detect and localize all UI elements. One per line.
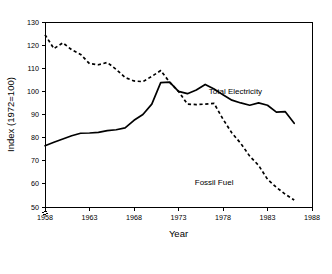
plot-box: [45, 22, 312, 207]
chart-canvas: 5060708090100110120130 19581963196819731…: [0, 0, 332, 274]
series-label-total-electricity: Total Electricity: [209, 87, 262, 96]
x-tick-label-1988: 1988: [304, 213, 320, 222]
x-tick-label-1973: 1973: [171, 213, 187, 222]
y-tick-label-60: 60: [31, 179, 39, 188]
series-line-fossil-fuel: [45, 35, 294, 200]
plot-frame: [45, 22, 312, 207]
y-tick-label-50: 50: [31, 203, 39, 212]
y-axis-ticks: [42, 22, 46, 207]
x-axis-tick-labels: 1958196319681973197819831988: [37, 213, 320, 222]
series-label-fossil-fuel: Fossil Fuel: [195, 178, 234, 187]
x-tick-label-1983: 1983: [260, 213, 276, 222]
x-tick-label-1978: 1978: [215, 213, 231, 222]
y-tick-label-120: 120: [27, 41, 39, 50]
y-axis-title: Index (1972=100): [5, 77, 16, 152]
x-tick-label-1958: 1958: [37, 213, 53, 222]
y-axis-tick-labels: 5060708090100110120130: [27, 18, 39, 212]
y-tick-label-130: 130: [27, 18, 39, 27]
x-tick-label-1968: 1968: [126, 213, 142, 222]
y-tick-label-100: 100: [27, 87, 39, 96]
y-tick-label-90: 90: [31, 110, 39, 119]
data-series-group: [45, 35, 294, 200]
x-tick-label-1963: 1963: [82, 213, 98, 222]
series-inline-labels: Total ElectricityFossil Fuel: [195, 87, 262, 187]
y-tick-label-80: 80: [31, 133, 39, 142]
y-tick-label-70: 70: [31, 156, 39, 165]
y-tick-label-110: 110: [28, 64, 39, 73]
x-axis-ticks: [45, 207, 312, 211]
x-axis-title: Year: [169, 228, 188, 239]
line-chart-figure: 5060708090100110120130 19581963196819731…: [0, 0, 332, 274]
